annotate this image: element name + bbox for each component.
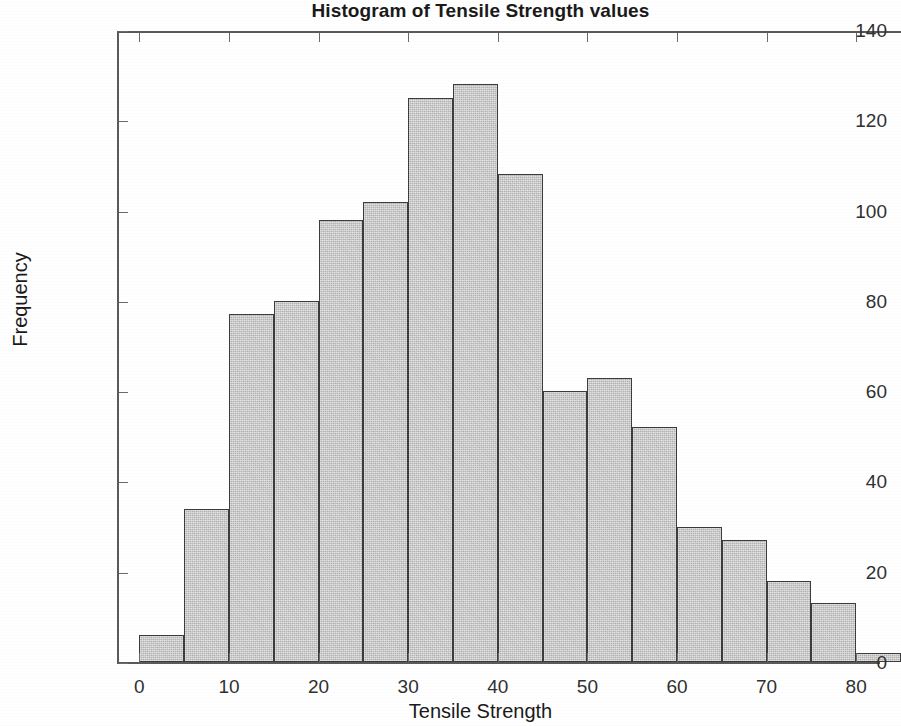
x-axis-label: Tensile Strength bbox=[0, 700, 901, 723]
histogram-bar bbox=[408, 98, 453, 662]
y-tick-mark bbox=[119, 663, 128, 664]
x-tick-mark bbox=[677, 33, 678, 42]
y-tick-label: 60 bbox=[807, 381, 887, 403]
x-tick-label: 50 bbox=[547, 676, 627, 698]
histogram-bar bbox=[498, 174, 543, 662]
x-tick-label: 30 bbox=[368, 676, 448, 698]
y-tick-label: 100 bbox=[807, 201, 887, 223]
y-tick-mark bbox=[119, 31, 128, 32]
x-tick-mark bbox=[139, 653, 140, 662]
histogram-bar bbox=[453, 84, 498, 662]
plot-clip bbox=[117, 31, 901, 663]
histogram-figure: Histogram of Tensile Strength values 010… bbox=[0, 0, 901, 726]
x-tick-mark bbox=[498, 653, 499, 662]
x-tick-label: 40 bbox=[458, 676, 538, 698]
histogram-bar bbox=[677, 527, 722, 662]
x-tick-mark bbox=[319, 33, 320, 42]
x-tick-mark bbox=[229, 33, 230, 42]
x-tick-mark bbox=[139, 33, 140, 42]
chart-title: Histogram of Tensile Strength values bbox=[0, 0, 901, 22]
y-tick-label: 80 bbox=[807, 291, 887, 313]
y-axis-label: Frequency bbox=[9, 220, 32, 380]
histogram-bar bbox=[319, 220, 364, 662]
histogram-bar bbox=[543, 391, 588, 662]
y-tick-label: 140 bbox=[807, 20, 887, 42]
plot-area: 01020304050607080 020406080100120140 bbox=[117, 31, 901, 663]
x-tick-mark bbox=[677, 653, 678, 662]
y-tick-mark bbox=[119, 212, 128, 213]
y-tick-label: 0 bbox=[807, 652, 887, 674]
y-tick-label: 20 bbox=[807, 562, 887, 584]
histogram-bar bbox=[632, 427, 677, 662]
x-tick-mark bbox=[767, 653, 768, 662]
x-tick-mark bbox=[319, 653, 320, 662]
x-tick-label: 0 bbox=[99, 676, 179, 698]
x-tick-mark bbox=[229, 653, 230, 662]
histogram-bar bbox=[587, 378, 632, 662]
histogram-bar bbox=[722, 540, 767, 662]
x-tick-mark bbox=[587, 33, 588, 42]
histogram-bar bbox=[229, 314, 274, 662]
axis-spine-left bbox=[117, 31, 119, 664]
histogram-bar bbox=[139, 635, 184, 662]
axis-spine-bottom bbox=[117, 662, 880, 664]
histogram-bar bbox=[184, 509, 229, 662]
x-tick-mark bbox=[767, 33, 768, 42]
x-tick-label: 80 bbox=[816, 676, 896, 698]
y-tick-mark bbox=[119, 573, 128, 574]
x-tick-mark bbox=[408, 33, 409, 42]
x-tick-label: 60 bbox=[637, 676, 717, 698]
histogram-bar bbox=[363, 202, 408, 662]
axis-spine-top bbox=[117, 31, 901, 33]
y-tick-label: 40 bbox=[807, 471, 887, 493]
y-tick-mark bbox=[119, 121, 128, 122]
y-tick-mark bbox=[119, 302, 128, 303]
x-tick-mark bbox=[408, 653, 409, 662]
histogram-bar bbox=[274, 301, 319, 662]
histogram-bar bbox=[767, 581, 812, 662]
y-tick-mark bbox=[119, 392, 128, 393]
x-tick-mark bbox=[587, 653, 588, 662]
x-tick-label: 20 bbox=[279, 676, 359, 698]
x-tick-label: 10 bbox=[189, 676, 269, 698]
y-tick-label: 120 bbox=[807, 110, 887, 132]
x-tick-mark bbox=[498, 33, 499, 42]
y-tick-mark bbox=[119, 482, 128, 483]
x-tick-label: 70 bbox=[727, 676, 807, 698]
